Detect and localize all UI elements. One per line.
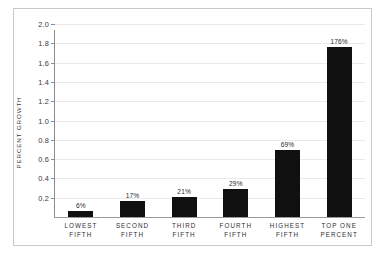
y-axis-tick-mark <box>51 140 55 141</box>
bar[interactable] <box>68 211 93 217</box>
category-label-line-1: FOURTH <box>220 222 252 229</box>
bar[interactable] <box>275 150 300 217</box>
y-axis-tick-label: 0.4 <box>38 174 49 183</box>
category-label-line-1: LOWEST <box>64 222 97 229</box>
plot-area: 0.20.40.60.81.01.21.41.61.82.0 6%17%21%2… <box>55 24 365 217</box>
y-axis-tick-mark <box>51 178 55 179</box>
y-axis-tick-label: 0.8 <box>38 135 49 144</box>
gridline <box>55 43 365 44</box>
gridline <box>55 178 365 179</box>
bar-value-label: 21% <box>177 188 191 195</box>
y-axis-tick-mark <box>51 101 55 102</box>
category-label-line-2: FIFTH <box>64 231 97 240</box>
gridline <box>55 101 365 102</box>
category-label-line-1: SECOND <box>116 222 149 229</box>
gridline <box>55 198 365 199</box>
gridline <box>55 63 365 64</box>
y-axis-tick-mark <box>51 82 55 83</box>
bar-value-label: 176% <box>330 38 347 45</box>
x-axis-category-label: TOP ONEPERCENT <box>320 222 357 239</box>
y-axis-tick-mark <box>51 63 55 64</box>
bar-slot[interactable]: 69% <box>275 24 300 217</box>
category-label-line-2: FIFTH <box>116 231 149 240</box>
category-label-line-2: FIFTH <box>220 231 252 240</box>
y-axis-tick-label: 2.0 <box>38 20 49 29</box>
category-label-line-1: THIRD <box>172 222 197 229</box>
y-axis-tick-label: 0.2 <box>38 193 49 202</box>
y-axis-tick-mark <box>51 43 55 44</box>
category-label-line-2: FIFTH <box>172 231 197 240</box>
bar-slot[interactable]: 29% <box>223 24 248 217</box>
y-axis-spine <box>54 30 55 217</box>
bar-value-label: 69% <box>281 141 295 148</box>
y-axis-tick-label: 1.2 <box>38 97 49 106</box>
y-axis-tick-mark <box>51 159 55 160</box>
y-axis-tick-label: 1.0 <box>38 116 49 125</box>
bar[interactable] <box>172 197 197 217</box>
bar-value-label: 6% <box>76 202 86 209</box>
category-label-line-1: TOP ONE <box>321 222 356 229</box>
y-axis-tick-label: 1.4 <box>38 77 49 86</box>
bar[interactable] <box>120 201 145 217</box>
bar-slot[interactable]: 21% <box>172 24 197 217</box>
category-label-line-1: HIGHEST <box>270 222 305 229</box>
bar-slot[interactable]: 6% <box>68 24 93 217</box>
bar-chart-figure: PERCENT GROWTH 0.20.40.60.81.01.21.41.61… <box>0 0 386 263</box>
bar-value-label: 29% <box>229 180 243 187</box>
x-axis-category-label: SECONDFIFTH <box>116 222 149 239</box>
y-axis-tick-mark <box>51 121 55 122</box>
x-axis-category-label: HIGHESTFIFTH <box>270 222 305 239</box>
y-axis-title: PERCENT GROWTH <box>12 62 26 202</box>
category-label-line-2: FIFTH <box>270 231 305 240</box>
category-label-line-2: PERCENT <box>320 231 357 240</box>
y-axis-tick-label: 1.8 <box>38 39 49 48</box>
x-axis-category-label: LOWESTFIFTH <box>64 222 97 239</box>
y-axis-tick-label: 1.6 <box>38 58 49 67</box>
bar-slot[interactable]: 176% <box>327 24 352 217</box>
bar-value-label: 17% <box>126 192 140 199</box>
gridline <box>55 82 365 83</box>
x-axis-category-label: FOURTHFIFTH <box>220 222 252 239</box>
bar-slot[interactable]: 17% <box>120 24 145 217</box>
y-axis-tick-mark <box>51 24 55 25</box>
gridline <box>55 159 365 160</box>
gridline <box>55 140 365 141</box>
bar[interactable] <box>223 189 248 217</box>
bar[interactable] <box>327 47 352 217</box>
gridline <box>55 121 365 122</box>
y-axis-tick-label: 0.6 <box>38 155 49 164</box>
x-axis-category-label: THIRDFIFTH <box>172 222 197 239</box>
y-axis-tick-mark <box>51 198 55 199</box>
x-axis-baseline <box>54 217 365 218</box>
y-axis-title-text: PERCENT GROWTH <box>16 96 23 168</box>
gridline <box>55 24 365 25</box>
